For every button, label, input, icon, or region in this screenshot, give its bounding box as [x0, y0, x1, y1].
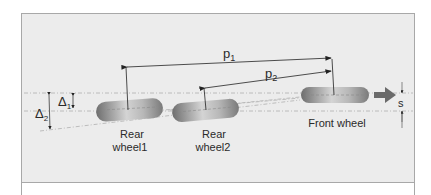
label-delta2: Δ2 [35, 106, 49, 123]
direction-arrow-icon [374, 87, 396, 103]
label-p1: p1 [223, 46, 235, 63]
label-rear-wheel2-line1: Rear [202, 128, 226, 140]
label-front-wheel: Front wheel [308, 117, 365, 129]
label-p2: p2 [265, 66, 277, 83]
dimension-delta2 [49, 95, 50, 129]
label-s: s [398, 97, 404, 109]
tracking-diagram: p1 p2 Δ1 Δ2 s Rear wheel1 Rear wheel2 Fr… [0, 0, 431, 195]
label-rear-wheel1-line2: wheel1 [112, 141, 148, 153]
rear-wheel-1 [95, 98, 163, 123]
label-rear-wheel2-line2: wheel2 [195, 141, 231, 153]
front-wheel [301, 87, 369, 103]
label-rear-wheel1-line1: Rear [120, 128, 144, 140]
label-delta1: Δ1 [58, 94, 72, 111]
